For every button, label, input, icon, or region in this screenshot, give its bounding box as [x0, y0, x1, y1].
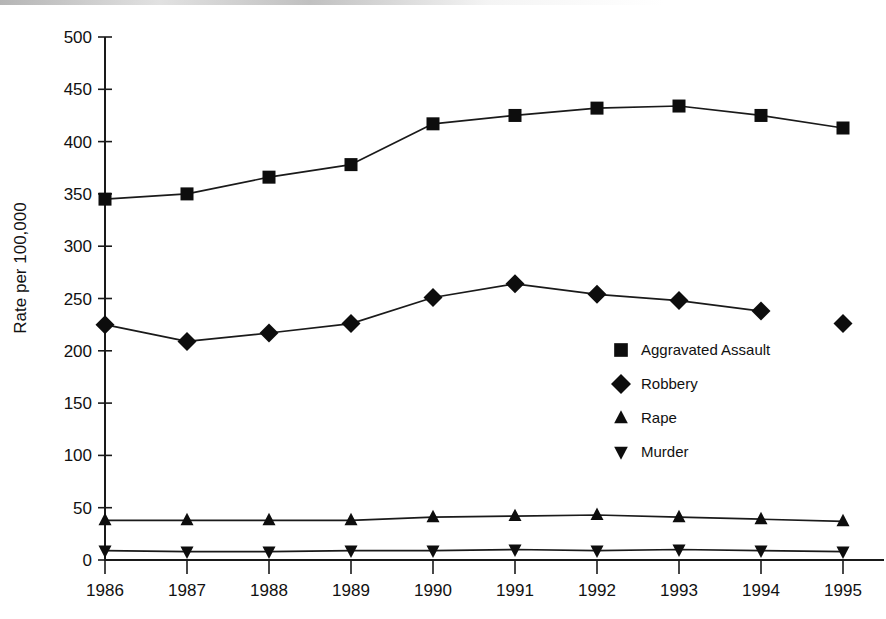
line-chart: 050100150200250300350400450500 198619871… [0, 0, 886, 619]
data-point [260, 324, 279, 343]
data-point [755, 109, 768, 122]
data-point [591, 102, 604, 115]
y-tick-label: 500 [64, 28, 92, 47]
legend-item-label: Aggravated Assault [641, 341, 771, 358]
y-tick-label: 0 [83, 551, 92, 570]
legend-item-label: Rape [641, 409, 677, 426]
data-point [263, 171, 276, 184]
chart-page: 050100150200250300350400450500 198619871… [0, 0, 886, 619]
y-tick-label: 250 [64, 290, 92, 309]
data-point [670, 291, 689, 310]
y-tick-label: 450 [64, 80, 92, 99]
legend-marker-square [614, 343, 628, 357]
legend-marker-triangle-up [614, 410, 628, 423]
data-point [673, 545, 686, 557]
data-point [591, 508, 604, 520]
data-point [506, 274, 525, 293]
data-point [509, 109, 522, 122]
data-point [96, 315, 115, 334]
data-point [345, 546, 358, 558]
y-tick-label: 50 [73, 499, 92, 518]
legend-marker-diamond [611, 374, 631, 394]
data-point [509, 545, 522, 557]
data-point [834, 314, 853, 333]
series-line [105, 550, 843, 552]
data-point [427, 546, 440, 558]
legend-marker-triangle-down [614, 447, 628, 460]
x-tick-label: 1986 [86, 581, 124, 600]
data-point [263, 513, 276, 525]
data-point [837, 514, 850, 526]
series-rape [99, 508, 850, 527]
legend-item-label: Murder [641, 443, 689, 460]
data-series-group [96, 100, 853, 560]
legend-item-label: Robbery [641, 375, 698, 392]
x-tick-label: 1991 [496, 581, 534, 600]
series-aggravated-assault [99, 100, 850, 206]
data-point [588, 285, 607, 304]
data-point [509, 509, 522, 521]
data-point [673, 510, 686, 522]
x-tick-label: 1993 [660, 581, 698, 600]
y-tick-label: 300 [64, 237, 92, 256]
series-robbery [96, 274, 853, 351]
legend-item-robbery[interactable]: Robbery [611, 374, 698, 394]
series-line [105, 515, 843, 521]
data-point [424, 288, 443, 307]
y-axis-title: Rate per 100,000 [11, 202, 30, 333]
data-point [99, 193, 112, 206]
x-tick-label: 1992 [578, 581, 616, 600]
x-tick-label: 1990 [414, 581, 452, 600]
data-point [181, 513, 194, 525]
data-point [752, 302, 771, 321]
data-point [755, 512, 768, 524]
x-tick-group: 1986198719881989199019911992199319941995 [86, 560, 862, 600]
data-point [755, 546, 768, 558]
data-point [837, 122, 850, 135]
y-tick-label: 200 [64, 342, 92, 361]
data-point [673, 100, 686, 113]
x-tick-label: 1987 [168, 581, 206, 600]
data-point [99, 513, 112, 525]
chart-legend: Aggravated AssaultRobberyRapeMurder [611, 341, 771, 460]
data-point [591, 546, 604, 558]
legend-item-murder[interactable]: Murder [614, 443, 688, 460]
data-point [837, 547, 850, 559]
legend-item-aggravated-assault[interactable]: Aggravated Assault [614, 341, 771, 358]
data-point [427, 510, 440, 522]
series-murder [99, 545, 850, 560]
data-point [99, 546, 112, 558]
y-tick-label: 400 [64, 133, 92, 152]
x-tick-label: 1988 [250, 581, 288, 600]
data-point [345, 513, 358, 525]
y-tick-label: 100 [64, 446, 92, 465]
data-point [181, 187, 194, 200]
data-point [342, 314, 361, 333]
y-tick-label: 150 [64, 394, 92, 413]
x-tick-label: 1994 [742, 581, 780, 600]
y-tick-label: 350 [64, 185, 92, 204]
x-tick-label: 1995 [824, 581, 862, 600]
data-point [345, 158, 358, 171]
series-line [105, 106, 843, 199]
data-point [427, 117, 440, 130]
legend-item-rape[interactable]: Rape [614, 409, 677, 426]
x-tick-label: 1989 [332, 581, 370, 600]
data-point [178, 332, 197, 351]
data-point [181, 547, 194, 559]
data-point [263, 547, 276, 559]
